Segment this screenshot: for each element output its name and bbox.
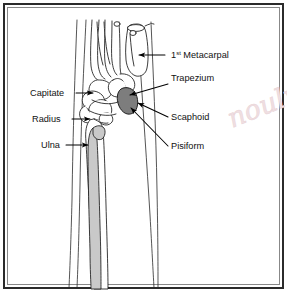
scaphoid-bone xyxy=(117,88,137,115)
label-scaphoid: Scaphoid xyxy=(171,112,209,122)
wrist-diagram: nouly 1st Metacarpal Tr xyxy=(0,0,287,292)
label-ulna: Ulna xyxy=(41,140,61,150)
watermark-text: nouly xyxy=(223,76,287,133)
handwriting-watermark: nouly xyxy=(223,76,287,133)
label-trapezium: Trapezium xyxy=(171,73,214,83)
carpal-bones xyxy=(80,74,138,125)
label-pisiform: Pisiform xyxy=(171,141,205,151)
label-radius: Radius xyxy=(32,114,61,124)
metacarpal-shafts xyxy=(91,20,121,81)
leader-trapezium xyxy=(130,84,168,95)
label-capitate: Capitate xyxy=(30,88,64,98)
leader-scaphoid xyxy=(138,103,168,117)
anatomical-figure: nouly 1st Metacarpal Tr xyxy=(0,0,287,292)
leader-pisiform xyxy=(131,108,168,146)
label-first-metacarpal: 1st Metacarpal xyxy=(171,50,229,60)
